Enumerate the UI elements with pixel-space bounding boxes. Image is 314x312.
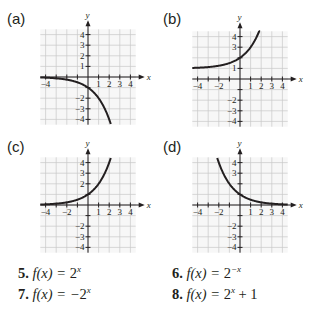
y-axis-label: y — [237, 12, 242, 22]
y-tick-label: −4 — [75, 114, 85, 124]
x-tick-label: 2 — [259, 81, 264, 91]
y-tick-label: −2 — [75, 93, 85, 103]
x-tick-label: 4 — [280, 81, 285, 91]
x-tick-label: 3 — [118, 207, 123, 217]
y-tick-label: 4 — [80, 30, 85, 40]
x-tick-label: −2 — [62, 207, 72, 217]
equation-8: 8. f(x) = 2x + 1 — [172, 285, 258, 303]
x-tick-label: 4 — [128, 207, 133, 217]
equation-lhs: f(x) = − — [33, 286, 80, 302]
x-tick-label: 2 — [259, 207, 264, 217]
x-tick-label: −4 — [193, 81, 203, 91]
equation-tail: + 1 — [235, 286, 258, 302]
equation-lhs: f(x) = — [187, 265, 224, 281]
x-tick-label: −4 — [41, 79, 51, 89]
equation-number: 7. — [18, 286, 29, 302]
x-tick-label: 3 — [118, 79, 123, 89]
y-tick-label: −3 — [227, 232, 237, 242]
y-axis-label: y — [85, 10, 90, 20]
equation-exponent: x — [87, 285, 91, 295]
x-axis-label: x — [146, 200, 151, 210]
y-tick-label: −2 — [227, 221, 237, 231]
x-tick-label: −2 — [214, 207, 224, 217]
equation-exponent: x — [77, 264, 81, 274]
y-tick-label: 3 — [80, 168, 85, 178]
equation-5: 5. f(x) = 2x — [18, 264, 81, 282]
y-tick-label: 3 — [80, 40, 85, 50]
equation-number: 8. — [172, 286, 183, 302]
y-tick-label: −3 — [75, 232, 85, 242]
equation-number: 6. — [172, 265, 183, 281]
equation-lhs: f(x) = — [33, 265, 70, 281]
x-tick-label: −4 — [193, 207, 203, 217]
y-tick-label: −4 — [227, 116, 237, 126]
y-tick-label: −3 — [227, 106, 237, 116]
y-tick-label: 2 — [80, 179, 85, 189]
y-tick-label: 4 — [232, 32, 237, 42]
y-axis-label: y — [85, 138, 90, 148]
x-tick-label: −4 — [41, 207, 51, 217]
y-tick-label: −2 — [227, 95, 237, 105]
x-axis-arrow — [139, 203, 145, 208]
equation-lhs: f(x) = — [187, 286, 224, 302]
x-axis-label: x — [146, 72, 151, 82]
x-axis-arrow — [139, 75, 145, 80]
equation-base: 2 — [224, 286, 231, 302]
x-tick-label: 3 — [270, 81, 275, 91]
x-tick-label: 4 — [128, 79, 133, 89]
equation-base: 2 — [224, 265, 231, 281]
y-tick-label: −4 — [75, 242, 85, 252]
equation-exponent: −x — [231, 264, 241, 274]
y-tick-label: −3 — [75, 104, 85, 114]
x-axis-arrow — [291, 77, 297, 82]
y-tick-label: −4 — [227, 242, 237, 252]
equation-base: 2 — [70, 265, 77, 281]
x-tick-label: 2 — [107, 79, 112, 89]
y-axis-arrow — [86, 20, 91, 26]
y-tick-label: 3 — [232, 168, 237, 178]
x-axis-label: x — [298, 200, 303, 210]
y-axis-arrow — [238, 148, 243, 154]
x-tick-label: 3 — [270, 207, 275, 217]
y-axis-arrow — [86, 148, 91, 154]
y-axis-label: y — [237, 138, 242, 148]
x-axis-label: x — [298, 74, 303, 84]
equation-7: 7. f(x) = −2x — [18, 285, 91, 303]
y-tick-label: 3 — [232, 42, 237, 52]
y-tick-label: 4 — [80, 158, 85, 168]
equation-base: 2 — [79, 286, 86, 302]
y-tick-label: 4 — [232, 158, 237, 168]
y-tick-label: −2 — [75, 221, 85, 231]
x-axis-arrow — [291, 203, 297, 208]
y-tick-label: 1 — [232, 63, 237, 73]
x-tick-label: 1 — [96, 79, 101, 89]
y-tick-label: 2 — [80, 51, 85, 61]
x-tick-label: −2 — [214, 81, 224, 91]
equation-number: 5. — [18, 265, 29, 281]
y-axis-arrow — [238, 22, 243, 28]
y-tick-label: 1 — [80, 61, 85, 71]
x-tick-label: 1 — [248, 81, 253, 91]
x-tick-label: 2 — [107, 207, 112, 217]
x-tick-label: 4 — [280, 207, 285, 217]
x-tick-label: 1 — [248, 207, 253, 217]
x-tick-label: 1 — [96, 207, 101, 217]
equation-6: 6. f(x) = 2−x — [172, 264, 241, 282]
